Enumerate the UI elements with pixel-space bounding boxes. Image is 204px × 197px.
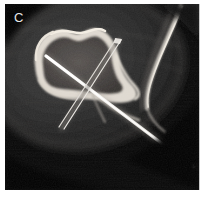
panel-label: C [14, 11, 24, 25]
figure-margin-bottom [0, 190, 204, 197]
figure-margin-left [0, 0, 5, 197]
ct-scan-image [5, 4, 199, 190]
ct-figure-panel: C [0, 0, 204, 197]
ct-scan-frame: C [5, 4, 200, 190]
figure-margin-right [200, 0, 204, 197]
ct-streak-artifact [5, 4, 199, 190]
figure-margin-top [0, 0, 204, 4]
